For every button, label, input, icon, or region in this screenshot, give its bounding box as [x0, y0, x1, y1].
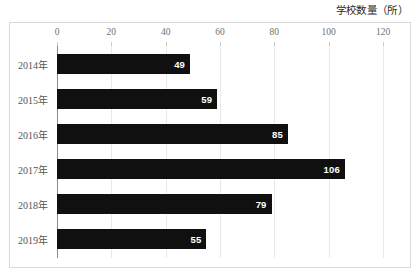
x-tick-label-0: 0 — [55, 27, 60, 37]
bar-2019年[interactable]: 55 — [57, 229, 206, 249]
bar-2017年[interactable]: 106 — [57, 159, 345, 179]
gridline-120 — [383, 46, 384, 258]
gridline-20 — [111, 46, 112, 258]
x-axis-tick-labels: 020406080100120 — [57, 27, 383, 43]
bar-value-label: 79 — [256, 199, 267, 210]
gridline-100 — [329, 46, 330, 258]
plot-area: 2014年492015年592016年852017年1062018年792019… — [57, 46, 383, 258]
chart-frame: 020406080100120 2014年492015年592016年85201… — [9, 22, 411, 268]
bar-2014年[interactable]: 49 — [57, 54, 190, 74]
category-label-2014年: 2014年 — [18, 57, 48, 72]
category-label-2017年: 2017年 — [18, 162, 48, 177]
bar-value-label: 59 — [201, 94, 212, 105]
bar-row: 2016年85 — [57, 124, 383, 144]
category-label-2015年: 2015年 — [18, 92, 48, 107]
x-tick-label-20: 20 — [107, 27, 117, 37]
bar-row: 2015年59 — [57, 89, 383, 109]
bar-row: 2014年49 — [57, 54, 383, 74]
x-tick-label-120: 120 — [376, 27, 390, 37]
x-tick-label-100: 100 — [322, 27, 336, 37]
gridline-80 — [274, 46, 275, 258]
bar-2015年[interactable]: 59 — [57, 89, 217, 109]
category-label-2016年: 2016年 — [18, 127, 48, 142]
x-tick-label-60: 60 — [215, 27, 225, 37]
x-tick-label-40: 40 — [161, 27, 171, 37]
category-label-2018年: 2018年 — [18, 197, 48, 212]
bar-2018年[interactable]: 79 — [57, 194, 272, 214]
bar-value-label: 85 — [272, 129, 283, 140]
y-axis-line — [57, 46, 58, 258]
gridline-40 — [166, 46, 167, 258]
bar-row: 2018年79 — [57, 194, 383, 214]
bar-value-label: 49 — [174, 59, 185, 70]
bar-value-label: 55 — [190, 234, 201, 245]
bar-chart-figure: 学校数量（所） 020406080100120 2014年492015年5920… — [0, 0, 420, 280]
x-tick-label-80: 80 — [270, 27, 280, 37]
gridline-60 — [220, 46, 221, 258]
bar-row: 2017年106 — [57, 159, 383, 179]
bar-value-label: 106 — [324, 164, 340, 175]
axis-unit-title: 学校数量（所） — [336, 2, 408, 17]
bar-2016年[interactable]: 85 — [57, 124, 288, 144]
category-label-2019年: 2019年 — [18, 232, 48, 247]
bar-row: 2019年55 — [57, 229, 383, 249]
